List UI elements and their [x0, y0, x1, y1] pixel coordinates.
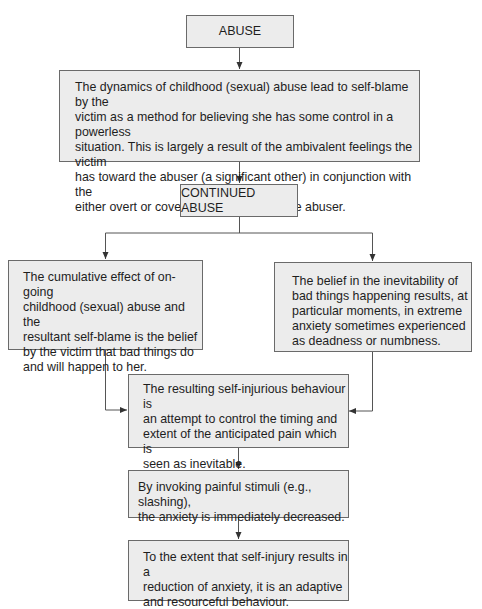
node-resulting-line: an attempt to control the timing and	[143, 412, 348, 427]
node-extent-line: To the extent that self-injury results i…	[143, 550, 348, 580]
node-invoking-line: By invoking painful stimuli (e.g., slash…	[138, 480, 348, 510]
node-dynamics-line: The dynamics of childhood (sexual) abuse…	[75, 80, 419, 110]
node-cumulative-line: and will happen to her.	[23, 360, 202, 375]
node-dynamics-line: victim as a method for believing she has…	[75, 110, 419, 140]
node-inevitability-line: The belief in the inevitability of	[292, 274, 468, 289]
node-cumulative-line: resultant self-blame is the belief	[23, 330, 202, 345]
node-dynamics: The dynamics of childhood (sexual) abuse…	[59, 70, 420, 162]
node-inevitability-line: particular moments, in extreme	[292, 304, 468, 319]
node-inevitability-line: anxiety sometimes experienced	[292, 319, 468, 334]
node-abuse: ABUSE	[186, 15, 294, 48]
node-extent: To the extent that self-injury results i…	[128, 540, 349, 601]
node-continued-abuse-label: CONTINUED ABUSE	[181, 186, 297, 216]
node-resulting: The resulting self-injurious behaviour i…	[128, 374, 349, 448]
node-inevitability-line: as deadness or numbness.	[292, 334, 468, 349]
node-cumulative-line: childhood (sexual) abuse and the	[23, 300, 202, 330]
node-resulting-line: The resulting self-injurious behaviour i…	[143, 382, 348, 412]
node-extent-line: reduction of anxiety, it is an adaptive	[143, 580, 348, 595]
node-extent-line: and resourceful behaviour.	[143, 595, 348, 609]
node-invoking-line: the anxiety is immediately decreased.	[138, 510, 348, 525]
node-inevitability: The belief in the inevitability of bad t…	[274, 262, 472, 352]
node-resulting-line: extent of the anticipated pain which is	[143, 427, 348, 457]
node-cumulative-line: The cumulative effect of on-going	[23, 270, 202, 300]
node-continued-abuse: CONTINUED ABUSE	[180, 184, 298, 217]
node-dynamics-line: situation. This is largely a result of t…	[75, 140, 419, 170]
node-cumulative-line: by the victim that bad things do	[23, 345, 202, 360]
node-abuse-label: ABUSE	[219, 24, 261, 39]
node-cumulative: The cumulative effect of on-going childh…	[8, 260, 203, 350]
node-invoking: By invoking painful stimuli (e.g., slash…	[128, 470, 349, 518]
node-inevitability-line: bad things happening results, at	[292, 289, 468, 304]
